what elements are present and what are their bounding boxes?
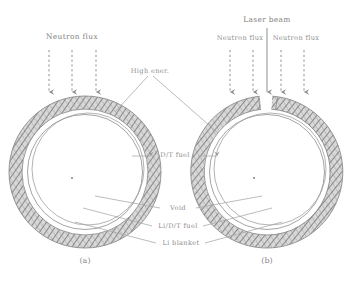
leader-high-ener-a [115,76,148,112]
panel-a-caption: (a) [79,256,90,265]
core-dot-b [253,177,255,179]
li-dt-fuel-boundary-b [210,115,325,230]
li-blanket-ring-a-overlay [16,103,155,242]
leader-high-ener-b [153,76,218,133]
neutron-flux-left-label: Neutron flux [46,33,98,40]
fusion-target-diagram: Neutron flux Laser beam Neutron flux Neu… [0,0,357,289]
dt-fuel-label: D/T fuel [160,152,190,159]
void-label: Void [170,205,186,212]
panel-b-sphere [186,91,348,253]
dt-fuel-core-a [32,113,144,225]
neutron-flux-right-a-label: Neutron flux [217,35,264,42]
neutron-arrows-a [49,50,96,92]
li-blanket-ring-b-overlay [193,98,341,246]
core-dot-a [71,177,73,179]
li-blanket-label: Li blanket [162,240,199,247]
li-dt-fuel-label: Li/D/T fuel [158,223,197,230]
high-ener-label: High ener. [131,68,170,75]
li-dt-fuel-boundary-a [28,115,143,230]
laser-beam-label: Laser beam [243,16,290,23]
blanket-outer-edge-b [186,91,348,253]
panel-a-sphere [9,96,161,248]
blanket-inner-edge-a [22,109,148,235]
neutron-flux-right-b-label: Neutron flux [273,35,320,42]
panel-b-caption: (b) [261,256,272,265]
